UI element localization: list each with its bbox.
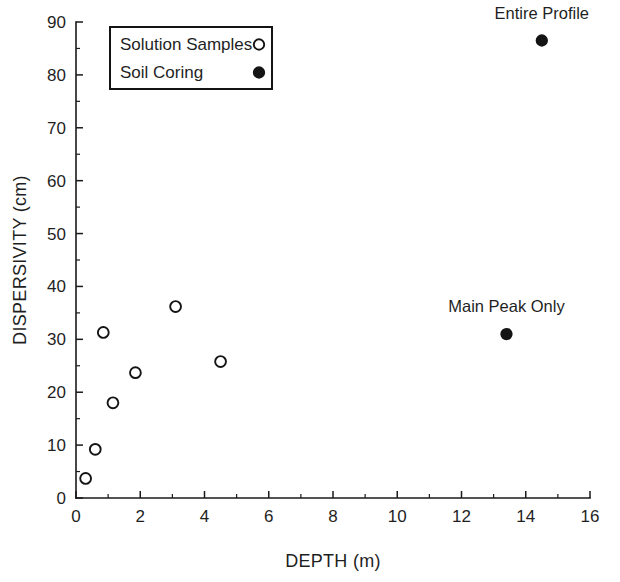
y-tick-label: 60	[47, 172, 66, 191]
y-tick-label: 20	[47, 383, 66, 402]
x-tick-label: 8	[328, 507, 337, 526]
y-axis-title: DISPERSIVITY (cm)	[10, 175, 30, 345]
annotation-label: Entire Profile	[495, 4, 589, 22]
x-tick-label: 16	[581, 507, 600, 526]
axes-group	[76, 22, 590, 498]
data-point-filled	[501, 329, 512, 340]
x-axis-title: DEPTH (m)	[285, 551, 381, 571]
legend-label-soil-coring: Soil Coring	[120, 63, 203, 82]
x-tick-label: 12	[452, 507, 471, 526]
x-tick-label: 0	[71, 507, 80, 526]
x-tick-label: 2	[136, 507, 145, 526]
y-tick-label: 30	[47, 330, 66, 349]
data-point-open	[170, 301, 181, 312]
y-tick-label: 40	[47, 277, 66, 296]
data-point-open	[215, 356, 226, 367]
legend-label-solution-samples: Solution Samples	[120, 35, 252, 54]
x-tick-label: 4	[200, 507, 209, 526]
y-tick-label: 0	[57, 489, 66, 508]
x-axis-major-ticks	[76, 491, 590, 498]
data-point-open	[108, 397, 119, 408]
legend-marker-filled-circle-icon	[254, 67, 265, 78]
scatter-plot-figure: 0246810121416 0102030405060708090 DEPTH …	[0, 0, 620, 582]
series-solution-samples	[80, 301, 226, 484]
data-point-open	[98, 327, 109, 338]
series-soil-coring	[501, 35, 547, 339]
y-tick-label: 50	[47, 225, 66, 244]
y-tick-label: 10	[47, 436, 66, 455]
x-tick-label: 10	[388, 507, 407, 526]
x-axis-tick-labels: 0246810121416	[71, 507, 599, 526]
data-point-open	[80, 473, 91, 484]
data-point-filled	[536, 35, 547, 46]
plot-canvas: 0246810121416 0102030405060708090 DEPTH …	[0, 0, 620, 582]
data-point-open	[130, 367, 141, 378]
annotation-label: Main Peak Only	[448, 297, 565, 315]
x-tick-label: 14	[516, 507, 535, 526]
x-tick-label: 6	[264, 507, 273, 526]
y-tick-label: 90	[47, 13, 66, 32]
data-markers-group	[80, 35, 547, 484]
y-axis-tick-labels: 0102030405060708090	[47, 13, 66, 508]
legend: Solution Samples Soil Coring	[110, 27, 272, 89]
annotations-group: Entire ProfileMain Peak Only	[448, 4, 589, 316]
y-tick-label: 80	[47, 66, 66, 85]
legend-marker-open-circle-icon	[254, 39, 264, 49]
y-tick-label: 70	[47, 119, 66, 138]
data-point-open	[90, 444, 101, 455]
